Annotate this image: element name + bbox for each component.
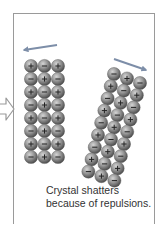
cation-sphere — [120, 72, 133, 85]
cation-sphere — [117, 137, 130, 150]
cation-sphere — [38, 124, 51, 137]
right-fragment-motion-arrow — [114, 59, 146, 70]
cation-sphere — [114, 96, 127, 109]
anion-sphere — [24, 72, 37, 85]
anion-sphere — [38, 59, 51, 72]
anion-sphere — [24, 124, 37, 137]
right-crystal-fragment — [82, 67, 147, 187]
cation-sphere — [24, 85, 37, 98]
anion-sphere — [51, 98, 64, 111]
anion-sphere — [24, 98, 37, 111]
anion-sphere — [133, 76, 146, 89]
anion-sphere — [82, 165, 95, 178]
cation-sphere — [24, 59, 37, 72]
anion-sphere — [24, 150, 37, 163]
anion-sphere — [95, 116, 108, 129]
cation-sphere — [95, 170, 108, 183]
cation-sphere — [38, 72, 51, 85]
anion-sphere — [51, 124, 64, 137]
anion-sphere — [38, 111, 51, 124]
cation-sphere — [24, 137, 37, 150]
cation-sphere — [24, 111, 37, 124]
cation-sphere — [124, 113, 137, 126]
left-crystal-fragment — [24, 59, 64, 163]
anion-sphere — [127, 101, 140, 114]
anion-sphere — [88, 141, 101, 154]
cation-sphere — [51, 85, 64, 98]
cation-sphere — [101, 145, 114, 158]
cation-sphere — [85, 153, 98, 166]
cation-sphere — [108, 121, 121, 134]
cation-sphere — [98, 104, 111, 117]
anion-sphere — [98, 157, 111, 170]
anion-sphere — [51, 150, 64, 163]
cation-sphere — [130, 89, 143, 102]
anion-sphere — [121, 125, 134, 138]
anion-sphere — [101, 92, 114, 105]
anion-sphere — [104, 133, 117, 146]
anion-sphere — [107, 67, 120, 80]
anion-sphere — [38, 137, 51, 150]
cation-sphere — [111, 162, 124, 175]
cation-sphere — [51, 59, 64, 72]
caption-text: Crystal shatters because of repulsions. — [46, 184, 156, 209]
left-fragment-motion-arrow — [24, 45, 57, 50]
anion-sphere — [114, 150, 127, 163]
cation-sphere — [38, 98, 51, 111]
anion-sphere — [38, 85, 51, 98]
cation-sphere — [91, 128, 104, 141]
cation-sphere — [51, 137, 64, 150]
anion-sphere — [117, 84, 130, 97]
cation-sphere — [51, 111, 64, 124]
anion-sphere — [111, 109, 124, 122]
cation-sphere — [38, 150, 51, 163]
anion-sphere — [51, 72, 64, 85]
cation-sphere — [104, 80, 117, 93]
